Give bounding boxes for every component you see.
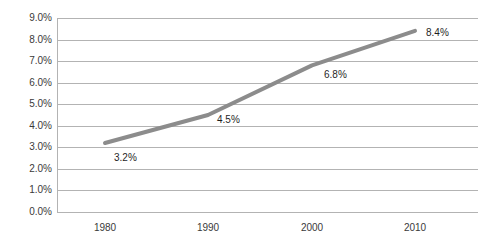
y-tick-label: 5.0% xyxy=(0,99,52,109)
y-axis-labels: 9.0% 8.0% 7.0% 6.0% 5.0% 4.0% 3.0% 2.0% … xyxy=(0,0,489,250)
x-tick-label: 2000 xyxy=(282,222,342,233)
data-label-1990: 4.5% xyxy=(217,114,240,125)
y-tick-label: 7.0% xyxy=(0,56,52,66)
y-tick-label: 0.0% xyxy=(0,207,52,217)
y-tick-label: 8.0% xyxy=(0,35,52,45)
y-tick-label: 6.0% xyxy=(0,78,52,88)
y-tick-label: 4.0% xyxy=(0,121,52,131)
x-tick-label: 1990 xyxy=(178,222,238,233)
line-chart: 9.0% 8.0% 7.0% 6.0% 5.0% 4.0% 3.0% 2.0% … xyxy=(0,0,489,250)
x-tick-label: 2010 xyxy=(385,222,445,233)
x-tick-label: 1980 xyxy=(75,222,135,233)
y-tick-label: 2.0% xyxy=(0,164,52,174)
y-tick-label: 1.0% xyxy=(0,185,52,195)
y-tick-label: 3.0% xyxy=(0,142,52,152)
data-label-2010: 8.4% xyxy=(426,27,449,38)
y-tick-label: 9.0% xyxy=(0,13,52,23)
data-label-2000: 6.8% xyxy=(324,69,347,80)
data-label-1980: 3.2% xyxy=(114,152,137,163)
